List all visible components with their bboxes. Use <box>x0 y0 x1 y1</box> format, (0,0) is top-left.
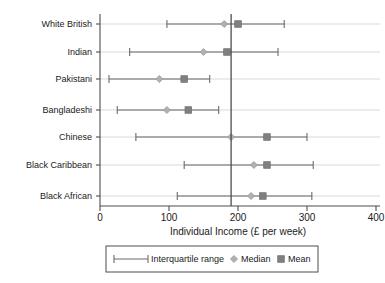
median-marker <box>221 20 228 27</box>
median-marker <box>200 48 207 55</box>
legend-label-mean: Mean <box>288 254 311 264</box>
mean-marker <box>185 107 192 114</box>
category-label-black-african: Black African <box>40 191 92 201</box>
data-row <box>130 48 278 56</box>
category-label-pakistani: Pakistani <box>55 74 92 84</box>
mean-marker <box>235 21 242 28</box>
x-axis-title: Individual Income (£ per week) <box>170 226 306 237</box>
data-row <box>167 20 284 28</box>
category-label-indian: Indian <box>67 47 92 57</box>
mean-marker <box>224 49 231 56</box>
legend-label-median: Median <box>241 254 271 264</box>
data-row <box>177 192 312 200</box>
data-row <box>184 161 313 169</box>
x-tick-label: 200 <box>230 212 247 223</box>
category-label-chinese: Chinese <box>59 132 92 142</box>
median-marker <box>250 161 257 168</box>
data-row <box>109 75 210 83</box>
x-tick-label: 100 <box>161 212 178 223</box>
category-label-bangladeshi: Bangladeshi <box>42 105 92 115</box>
income-distribution-chart: White BritishIndianPakistaniBangladeshiC… <box>0 0 385 283</box>
x-tick-label: 0 <box>97 212 103 223</box>
x-tick-label: 300 <box>299 212 316 223</box>
median-marker <box>156 75 163 82</box>
mean-marker <box>264 134 271 141</box>
median-marker <box>163 106 170 113</box>
mean-marker <box>181 76 188 83</box>
y-axis: White BritishIndianPakistaniBangladeshiC… <box>26 14 100 206</box>
median-marker <box>248 192 255 199</box>
legend-mean-icon <box>278 256 285 263</box>
legend-label-interquartile-range: Interquartile range <box>151 254 224 264</box>
x-tick-label: 400 <box>368 212 385 223</box>
mean-marker <box>264 162 271 169</box>
x-axis: 0100200300400 <box>97 206 385 223</box>
category-label-white-british: White British <box>41 19 92 29</box>
data-row <box>117 106 218 114</box>
category-label-black-caribbean: Black Caribbean <box>26 160 92 170</box>
data-row <box>136 133 307 141</box>
legend: Interquartile rangeMedianMean <box>106 246 318 272</box>
mean-marker <box>260 193 267 200</box>
